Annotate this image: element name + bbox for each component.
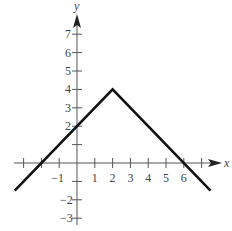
y-axis-label: y (73, 0, 80, 13)
x-axis-label: x (223, 156, 230, 170)
x-tick-label: 2 (110, 171, 116, 185)
y-tick-label: 3 (65, 101, 71, 115)
x-tick-label: 4 (145, 171, 151, 185)
x-tick-label: 6 (181, 171, 187, 185)
y-tick-label: 5 (65, 64, 71, 78)
y-tick-label: −3 (60, 211, 73, 225)
y-tick-label: 7 (65, 27, 71, 41)
x-tick-label: 1 (92, 171, 98, 185)
line-chart: xy−1123456765432−2−3 (0, 0, 232, 231)
y-tick-label: 6 (65, 46, 71, 60)
x-tick-label: 5 (163, 171, 169, 185)
x-tick-label: −1 (51, 171, 64, 185)
y-tick-label: 4 (65, 82, 71, 96)
x-tick-label: 3 (127, 171, 133, 185)
y-tick-label: 2 (65, 119, 71, 133)
y-tick-label: −2 (60, 193, 73, 207)
